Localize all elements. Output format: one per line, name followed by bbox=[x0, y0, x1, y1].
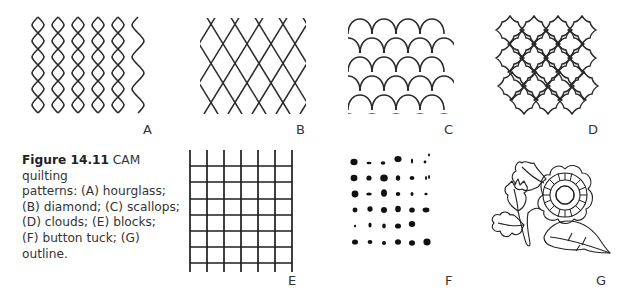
panel-d-clouds bbox=[496, 14, 596, 114]
caption-line-3: (B) diamond; (C) scallops; bbox=[22, 200, 180, 214]
panel-f-button-tuck bbox=[350, 152, 436, 248]
panel-b-diamond bbox=[194, 16, 306, 114]
outline-flower-graphic bbox=[488, 153, 618, 265]
scallops-pattern-graphic bbox=[348, 14, 454, 114]
panel-label-c: C bbox=[444, 122, 453, 137]
panel-label-d: D bbox=[588, 122, 598, 137]
button-tuck-pattern-graphic bbox=[350, 152, 436, 248]
panel-g-outline bbox=[488, 153, 618, 265]
panel-label-b: B bbox=[296, 122, 305, 137]
panel-label-e: E bbox=[288, 273, 296, 288]
caption-line-4: (D) clouds; (E) blocks; bbox=[22, 215, 156, 229]
panel-a-hourglass bbox=[34, 15, 134, 117]
clouds-pattern-graphic bbox=[496, 14, 596, 114]
panel-label-a: A bbox=[143, 122, 152, 137]
blocks-pattern-graphic bbox=[188, 150, 294, 272]
figure-number: Figure 14.11 bbox=[22, 153, 109, 167]
caption-line-5: (F) button tuck; (G) outline. bbox=[22, 231, 140, 261]
panel-label-g: G bbox=[596, 273, 606, 288]
diamond-pattern-graphic bbox=[194, 16, 306, 114]
panel-label-f: F bbox=[445, 273, 452, 288]
panel-c-scallops bbox=[348, 14, 454, 114]
figure-caption: Figure 14.11 CAM quilting patterns: (A) … bbox=[22, 153, 182, 262]
hourglass-pattern-graphic bbox=[34, 15, 134, 117]
panel-e-blocks bbox=[188, 150, 294, 272]
caption-line-2: patterns: (A) hourglass; bbox=[22, 184, 166, 198]
